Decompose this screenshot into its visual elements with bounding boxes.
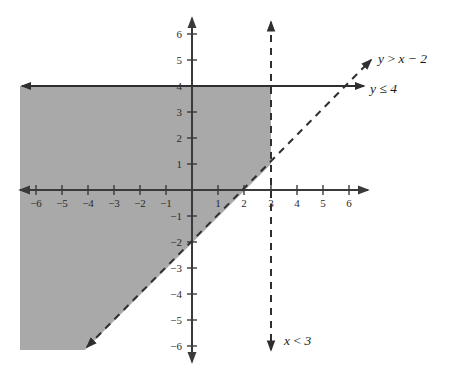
x-tick-label: −2 — [134, 197, 146, 209]
y-tick-label: −5 — [170, 314, 182, 326]
y-tick-label: 3 — [177, 106, 183, 118]
y-tick-label: −3 — [170, 262, 182, 274]
x-tick-label: 5 — [320, 197, 326, 209]
label-y-less-equal-4: y ≤ 4 — [368, 81, 397, 96]
solution-region — [20, 86, 271, 350]
x-tick-label: −4 — [82, 197, 94, 209]
y-tick-label: −4 — [170, 288, 182, 300]
label-y-greater-than-x-minus-2: y > x − 2 — [376, 51, 427, 66]
y-tick-label: −1 — [170, 210, 182, 222]
y-tick-label: −2 — [170, 236, 182, 248]
x-tick-label: 4 — [294, 197, 300, 209]
y-tick-label: 5 — [177, 54, 183, 66]
y-tick-label: −6 — [170, 340, 182, 352]
y-tick-label: 2 — [177, 132, 183, 144]
shaded-region-polygon — [20, 86, 271, 350]
inequality-graph: −6 −5 −4 −3 −2 −1 1 2 3 4 5 6 — [0, 0, 455, 373]
x-tick-label: −3 — [108, 197, 120, 209]
x-tick-label: 2 — [241, 197, 247, 209]
y-tick-label: 6 — [177, 28, 183, 40]
x-tick-label: −5 — [56, 197, 68, 209]
x-tick-label: 1 — [215, 197, 221, 209]
x-tick-label: −1 — [160, 197, 172, 209]
x-tick-label: −6 — [30, 197, 42, 209]
y-tick-label: 1 — [177, 158, 183, 170]
coordinate-plane: −6 −5 −4 −3 −2 −1 1 2 3 4 5 6 — [0, 0, 455, 373]
x-tick-label: 6 — [346, 197, 352, 209]
label-x-less-than-3: x < 3 — [283, 333, 311, 348]
